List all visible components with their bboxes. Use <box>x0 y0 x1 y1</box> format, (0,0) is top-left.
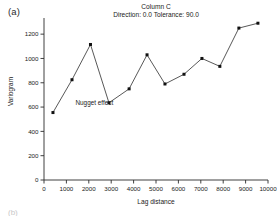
data-point-marker <box>146 53 149 56</box>
data-point-marker <box>89 43 92 46</box>
x-axis-tick-label: 6000 <box>172 185 186 192</box>
x-axis-tick-label: 8000 <box>216 185 230 192</box>
y-axis-tick-label: 1200 <box>25 30 39 37</box>
x-axis-tick-label: 2000 <box>82 185 96 192</box>
x-axis-tick-label: 3000 <box>104 185 118 192</box>
y-axis-tick-label: 200 <box>28 152 39 159</box>
data-point-marker <box>218 65 221 68</box>
next-panel-label: (b) <box>8 208 18 216</box>
x-axis-tick-label: 9000 <box>239 185 253 192</box>
y-axis-tick-label: 0 <box>35 176 39 183</box>
x-axis-tick-label: 4000 <box>127 185 141 192</box>
y-axis-tick-label: 400 <box>28 128 39 135</box>
y-axis-tick-label: 800 <box>28 79 39 86</box>
data-point-marker <box>237 27 240 30</box>
data-point-marker <box>183 73 186 76</box>
data-point-marker <box>51 111 54 114</box>
x-axis-tick-label: 5000 <box>149 185 163 192</box>
x-axis-tick-label: 7000 <box>194 185 208 192</box>
data-point-marker <box>128 87 131 90</box>
data-point-marker <box>256 22 259 25</box>
data-point-marker <box>71 78 74 81</box>
plot-area: 0200400600800100012000100020003000400050… <box>0 0 277 216</box>
x-axis-tick-label: 1000 <box>60 185 74 192</box>
x-axis-tick-label: 10000 <box>259 185 277 192</box>
data-point-marker <box>163 82 166 85</box>
y-axis-tick-label: 1000 <box>25 55 39 62</box>
x-axis-tick-label: 0 <box>42 185 46 192</box>
nugget-effect-annotation: Nugget effect <box>75 99 113 107</box>
data-point-marker <box>200 57 203 60</box>
figure-panel: (a) Column C Direction: 0.0 Tolerance: 9… <box>0 0 277 216</box>
y-axis-tick-label: 600 <box>28 103 39 110</box>
